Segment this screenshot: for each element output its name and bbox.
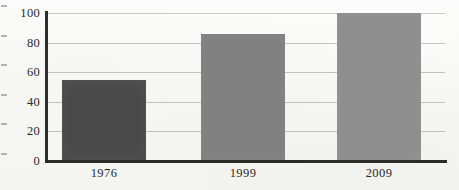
y-tick-label-100: 100: [8, 6, 40, 21]
y-tick-mark: [1, 35, 7, 36]
bar-chart: 100 80 60 40 20 0 1976 1999 2009: [0, 0, 459, 190]
bar-1976: [62, 80, 146, 161]
bar-fill-1999: [201, 34, 285, 161]
x-tick-label-1976: 1976: [62, 166, 146, 181]
bar-2009: [337, 13, 421, 161]
y-tick-label-0: 0: [8, 154, 40, 169]
x-tick-label-2009: 2009: [337, 166, 421, 181]
y-tick-label-80: 80: [8, 35, 40, 50]
y-tick-mark: [1, 94, 7, 95]
y-tick-mark: [1, 6, 7, 7]
y-axis-labels: 100 80 60 40 20 0: [0, 13, 40, 161]
plot-area: [47, 13, 445, 161]
x-tick-label-1999: 1999: [201, 166, 285, 181]
x-axis-line: [45, 160, 447, 163]
y-tick-label-20: 20: [8, 124, 40, 139]
x-axis-labels: 1976 1999 2009: [47, 166, 445, 186]
y-tick-mark: [1, 124, 7, 125]
bar-fill-2009: [337, 13, 421, 161]
y-tick-mark: [1, 154, 7, 155]
y-axis-line: [45, 11, 48, 163]
y-tick-label-40: 40: [8, 94, 40, 109]
bar-1999: [201, 34, 285, 161]
y-tick-label-60: 60: [8, 65, 40, 80]
bar-fill-1976: [62, 80, 146, 161]
y-tick-mark: [1, 65, 7, 66]
